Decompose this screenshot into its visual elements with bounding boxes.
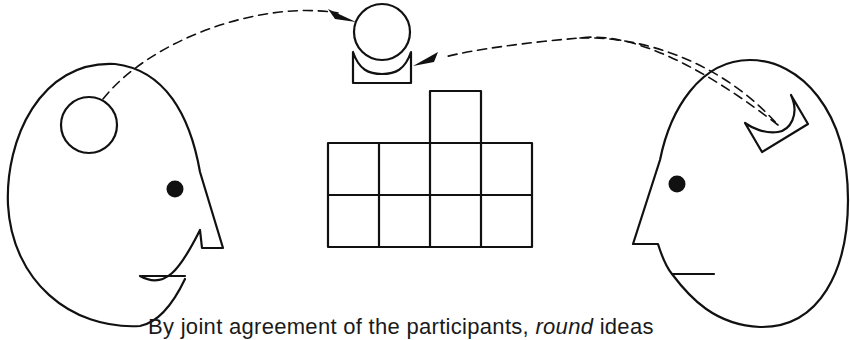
diagram-canvas xyxy=(0,0,850,340)
round-idea-ball xyxy=(354,4,410,60)
arrowhead-into-cradle xyxy=(413,52,438,66)
figure-caption: By joint agreement of the participants, … xyxy=(148,314,654,340)
right-head-eye xyxy=(669,176,686,193)
arrowhead-into-ball xyxy=(328,9,356,22)
cradle-holder xyxy=(353,52,411,83)
caption-suffix: ideas xyxy=(593,314,654,339)
left-idea-circle xyxy=(61,97,117,153)
caption-emphasis: round xyxy=(535,314,593,339)
arrow-left-to-ball xyxy=(103,11,338,99)
left-head-eye xyxy=(167,181,184,198)
block-grid xyxy=(328,91,532,247)
left-head-outline xyxy=(8,64,223,326)
arrow-cradle-dashed-tail xyxy=(580,38,778,125)
caption-prefix: By joint agreement of the participants, xyxy=(148,314,535,339)
right-head-outline xyxy=(633,60,848,327)
grid-extra-block xyxy=(430,91,481,143)
